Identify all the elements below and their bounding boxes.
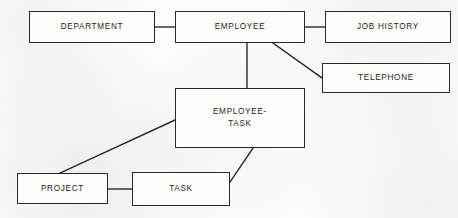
er-diagram-canvas: DEPARTMENT EMPLOYEE JOB HISTORY TELEPHON… (0, 0, 458, 218)
entity-box-employee-task[interactable]: EMPLOYEE- TASK (175, 88, 305, 148)
relationship-line-employee-task-task (230, 148, 253, 182)
entity-box-employee[interactable]: EMPLOYEE (175, 11, 305, 43)
entity-box-task[interactable]: TASK (132, 172, 230, 206)
relationship-line-employee-telephone (273, 43, 322, 78)
entity-label-department: DEPARTMENT (61, 21, 124, 33)
entity-label-task: TASK (169, 183, 193, 195)
entity-label-job-history: JOB HISTORY (357, 21, 419, 33)
entity-box-department[interactable]: DEPARTMENT (29, 11, 155, 43)
entity-box-telephone[interactable]: TELEPHONE (322, 63, 450, 93)
relationship-line-employee-task-project (60, 120, 175, 173)
entity-label-project: PROJECT (41, 183, 84, 195)
entity-box-job-history[interactable]: JOB HISTORY (325, 11, 451, 43)
entity-label-employee-task: EMPLOYEE- TASK (213, 106, 267, 130)
entity-box-project[interactable]: PROJECT (17, 173, 108, 204)
entity-label-telephone: TELEPHONE (358, 72, 414, 84)
entity-label-employee: EMPLOYEE (215, 21, 266, 33)
